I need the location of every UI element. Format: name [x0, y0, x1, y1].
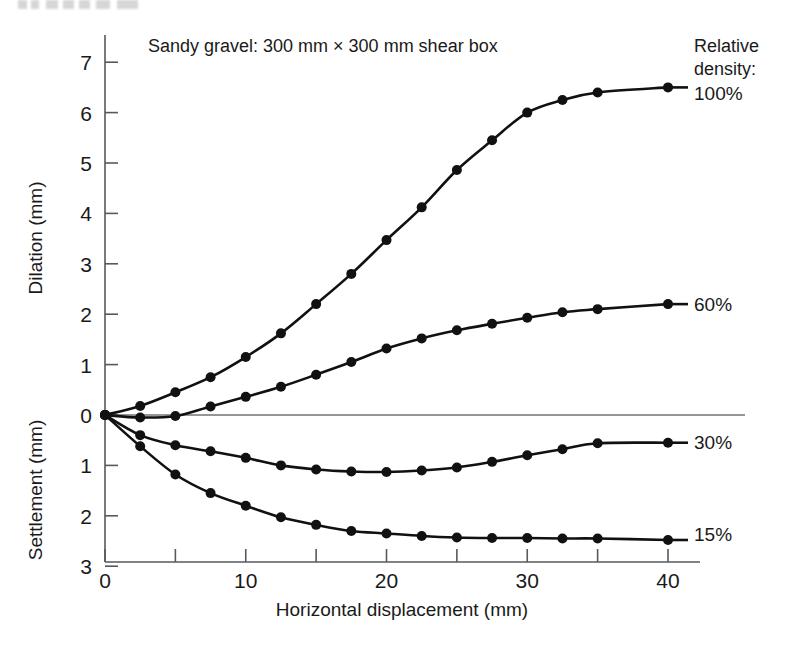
- y-axis-ticks: [105, 62, 118, 566]
- marker-100pct-10: [452, 165, 462, 175]
- series-label-30: 30%: [694, 432, 732, 453]
- marker-30pct-8: [382, 467, 392, 477]
- marker-30pct-7: [346, 466, 356, 476]
- marker-60pct-1: [135, 413, 145, 423]
- marker-15pct-3: [206, 488, 216, 498]
- legend-title-line1: Relative: [694, 36, 759, 56]
- series-label-60: 60%: [694, 294, 732, 315]
- marker-100pct-7: [346, 269, 356, 279]
- marker-30pct-9: [417, 465, 427, 475]
- marker-15pct-10: [452, 532, 462, 542]
- legend-title-line2: density:: [694, 59, 756, 79]
- curve-15pct: [105, 415, 668, 540]
- x-tick-label-0: 0: [99, 569, 111, 592]
- y-tick-label-4: 4: [80, 202, 92, 225]
- marker-60pct-4: [241, 392, 251, 402]
- marker-30pct-6: [311, 464, 321, 474]
- marker-15pct-5: [276, 512, 286, 522]
- marker-15pct-0: [100, 410, 110, 420]
- marker-100pct-13: [557, 95, 567, 105]
- marker-15pct-4: [241, 501, 251, 511]
- marker-100pct-8: [382, 235, 392, 245]
- marker-30pct-5: [276, 460, 286, 470]
- y-tick-label-7: 7: [80, 51, 92, 74]
- marker-100pct-11: [487, 135, 497, 145]
- y-tick-label-neg-1: 1: [80, 454, 92, 477]
- marker-60pct-9: [417, 333, 427, 343]
- marker-15pct-1: [135, 441, 145, 451]
- series-leader-lines: [668, 87, 688, 540]
- marker-100pct-4: [241, 352, 251, 362]
- y-tick-label-0: 0: [80, 404, 92, 427]
- marker-100pct-6: [311, 299, 321, 309]
- marker-15pct-12: [522, 533, 532, 543]
- marker-100pct-14: [593, 87, 603, 97]
- marker-30pct-12: [522, 450, 532, 460]
- marker-30pct-11: [487, 457, 497, 467]
- marker-100pct-1: [135, 401, 145, 411]
- marker-15pct-9: [417, 531, 427, 541]
- x-axis-title: Horizontal displacement (mm): [276, 599, 528, 620]
- marker-100pct-9: [417, 202, 427, 212]
- y-tick-label-6: 6: [80, 102, 92, 125]
- marker-60pct-3: [206, 401, 216, 411]
- marker-15pct-2: [170, 469, 180, 479]
- dilation-settlement-chart: 01234567123 010203040 Sandy gravel: 300 …: [0, 0, 802, 645]
- y-tick-label-1: 1: [80, 354, 92, 377]
- y-tick-label-3: 3: [80, 253, 92, 276]
- x-tick-label-40: 40: [656, 569, 679, 592]
- y-axis-title-lower: Settlement (mm): [25, 420, 46, 560]
- marker-30pct-1: [135, 430, 145, 440]
- x-axis-ticks: [105, 549, 668, 562]
- marker-60pct-13: [557, 307, 567, 317]
- marker-100pct-2: [170, 387, 180, 397]
- series-label-100: 100%: [694, 83, 743, 104]
- marker-15pct-13: [557, 533, 567, 543]
- marker-15pct-14: [593, 533, 603, 543]
- marker-60pct-11: [487, 319, 497, 329]
- marker-30pct-14: [593, 438, 603, 448]
- curve-100pct: [105, 87, 668, 415]
- x-tick-label-10: 10: [234, 569, 257, 592]
- marker-60pct-10: [452, 325, 462, 335]
- curve-60pct: [105, 304, 668, 417]
- marker-30pct-13: [557, 444, 567, 454]
- data-point-markers: [100, 82, 673, 545]
- x-tick-label-30: 30: [516, 569, 539, 592]
- x-tick-label-20: 20: [375, 569, 398, 592]
- x-axis-tick-labels: 010203040: [99, 569, 680, 592]
- figure-container: 01234567123 010203040 Sandy gravel: 300 …: [0, 0, 802, 645]
- chart-annotation: Sandy gravel: 300 mm × 300 mm shear box: [148, 36, 498, 56]
- y-tick-label-neg-3: 3: [80, 555, 92, 578]
- marker-100pct-5: [276, 328, 286, 338]
- cropped-heading-remnant: [18, 0, 138, 9]
- marker-60pct-12: [522, 313, 532, 323]
- marker-60pct-6: [311, 370, 321, 380]
- marker-15pct-8: [382, 528, 392, 538]
- marker-100pct-12: [522, 108, 532, 118]
- marker-15pct-7: [346, 526, 356, 536]
- marker-60pct-14: [593, 304, 603, 314]
- y-axis-tick-labels: 01234567123: [80, 51, 92, 578]
- marker-30pct-10: [452, 462, 462, 472]
- y-tick-label-5: 5: [80, 152, 92, 175]
- y-axis-title-upper: Dilation (mm): [25, 182, 46, 295]
- marker-60pct-7: [346, 357, 356, 367]
- marker-100pct-3: [206, 372, 216, 382]
- series-label-15: 15%: [694, 524, 732, 545]
- marker-15pct-11: [487, 533, 497, 543]
- marker-15pct-6: [311, 520, 321, 530]
- marker-30pct-4: [241, 453, 251, 463]
- y-tick-label-neg-2: 2: [80, 505, 92, 528]
- y-tick-label-2: 2: [80, 303, 92, 326]
- marker-60pct-8: [382, 343, 392, 353]
- marker-30pct-2: [170, 440, 180, 450]
- marker-60pct-5: [276, 382, 286, 392]
- marker-30pct-3: [206, 446, 216, 456]
- curve-30pct: [105, 415, 668, 472]
- marker-60pct-2: [170, 411, 180, 421]
